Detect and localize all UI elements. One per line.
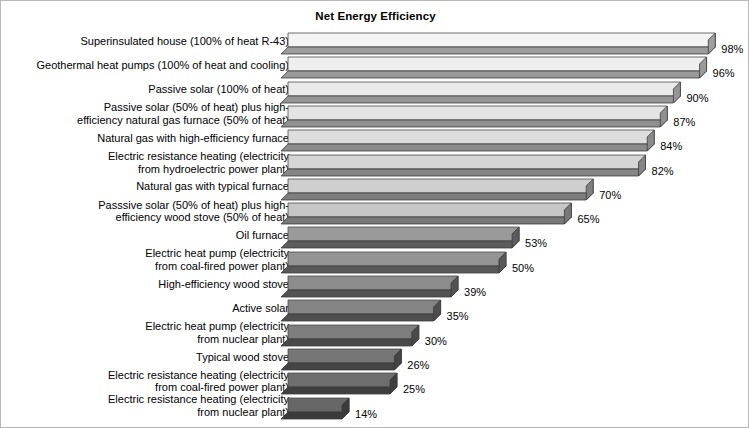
chart-plot-area: Superinsulated house (100% of heat R-43)… [1, 29, 749, 421]
bar-category-label: Electric resistance heating (electricity… [21, 369, 289, 394]
bar-category-label: Passive solar (50% of heat) plus high- e… [21, 101, 289, 126]
bar-category-label: Electric heat pump (electricity from coa… [21, 247, 289, 272]
bar-category-label: Natural gas with high-efficiency furnace [21, 132, 289, 145]
bar-value-label: 50% [512, 263, 534, 274]
bar-value-label: 35% [447, 311, 469, 322]
bar [288, 203, 580, 226]
bar-value-label: 53% [525, 238, 547, 249]
bar [288, 325, 428, 348]
bar-category-label: Electric heat pump (electricity from nuc… [21, 320, 289, 345]
bar [288, 57, 716, 80]
bar [288, 106, 676, 129]
bar-value-label: 26% [407, 360, 429, 371]
bar [288, 179, 602, 202]
bar-value-label: 30% [425, 336, 447, 347]
net-energy-efficiency-chart: Net Energy Efficiency Superinsulated hou… [0, 0, 749, 428]
bar-value-label: 90% [686, 93, 708, 104]
bar [288, 300, 450, 323]
bar [288, 373, 406, 396]
bar-value-label: 98% [721, 44, 743, 55]
bar [288, 227, 528, 250]
bar-value-label: 84% [660, 141, 682, 152]
bar-category-label: Typical wood stove [21, 351, 289, 364]
bar-category-label: Superinsulated house (100% of heat R-43) [21, 35, 289, 48]
bar-category-label: Active solar [21, 302, 289, 315]
bar-category-label: Oil furnace [21, 229, 289, 242]
chart-title: Net Energy Efficiency [1, 10, 749, 22]
bar-value-label: 82% [652, 166, 674, 177]
bar-category-label: Passive solar (100% of heat) [21, 83, 289, 96]
bar-value-label: 70% [599, 190, 621, 201]
bar [288, 252, 515, 275]
bar-category-label: Electric resistance heating (electricity… [21, 393, 289, 418]
bar-category-label: Natural gas with typical furnace [21, 180, 289, 193]
bar-value-label: 39% [464, 287, 486, 298]
bar-value-label: 65% [577, 214, 599, 225]
bar [288, 155, 655, 178]
bar-value-label: 87% [673, 117, 695, 128]
bar-value-label: 14% [355, 409, 377, 420]
bar [288, 276, 467, 299]
bar [288, 349, 410, 372]
bar-category-label: High-efficiency wood stove [21, 278, 289, 291]
bar [288, 82, 689, 105]
bar-value-label: 25% [403, 384, 425, 395]
bar-category-label: Electric resistance heating (electricity… [21, 150, 289, 175]
bar [288, 130, 663, 153]
bar-category-label: Geothermal heat pumps (100% of heat and … [21, 59, 289, 72]
bar [288, 33, 724, 56]
bar [288, 398, 358, 421]
bar-value-label: 96% [713, 68, 735, 79]
bar-category-label: Passsive solar (50% of heat) plus high- … [21, 199, 289, 224]
